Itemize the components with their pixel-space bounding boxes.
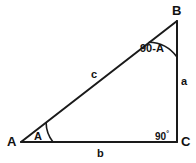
vertex-label-c: C — [181, 135, 190, 148]
vertex-label-b: B — [172, 4, 181, 17]
side-label-c: c — [91, 69, 97, 80]
angle-arc-at-a — [46, 123, 53, 143]
angle-label-c-right-angle: 90° — [155, 130, 169, 142]
side-c-hypotenuse-line — [21, 21, 177, 142]
angle-label-a: A — [34, 131, 42, 142]
angle-label-b: 90-A — [140, 43, 164, 54]
angle-c-value: 90 — [155, 131, 166, 142]
side-label-b: b — [97, 148, 104, 159]
degree-symbol-icon: ° — [166, 130, 169, 137]
side-label-a: a — [181, 76, 187, 87]
right-triangle-diagram: A B C c a b A 90-A 90° — [0, 0, 196, 163]
vertex-label-a: A — [7, 135, 16, 148]
